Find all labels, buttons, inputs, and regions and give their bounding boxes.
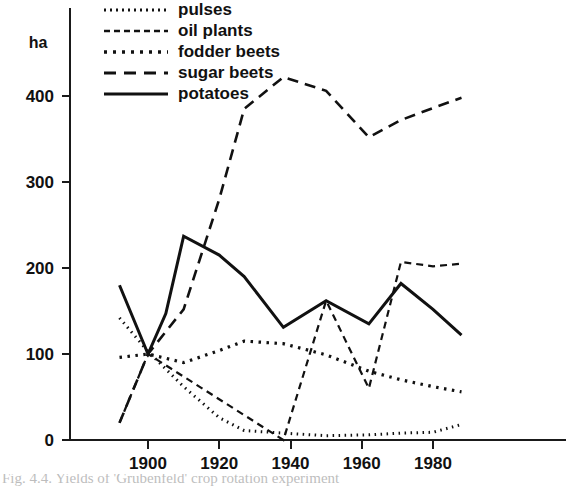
series-line-potatoes — [120, 236, 462, 354]
series-line-sugar-beets — [120, 77, 462, 423]
y-axis-unit-label: ha — [29, 34, 48, 51]
x-tick-label: 1940 — [272, 454, 310, 473]
line-chart-canvas: 0100200300400 19001920194019601980 ha pu… — [0, 0, 566, 486]
y-tick-label: 0 — [45, 431, 54, 450]
chart-figure: 0100200300400 19001920194019601980 ha pu… — [0, 0, 566, 486]
x-tick-label: 1960 — [343, 454, 381, 473]
legend-label-pulses: pulses — [178, 0, 232, 19]
y-tick-label: 100 — [26, 345, 54, 364]
data-series — [120, 77, 462, 440]
legend-label-oil-plants: oil plants — [178, 21, 253, 40]
chart-legend: pulsesoil plantsfodder beetssugar beetsp… — [104, 0, 280, 103]
series-line-fodder-beets — [120, 341, 462, 392]
legend-label-fodder-beets: fodder beets — [178, 42, 280, 61]
x-tick-label: 1980 — [414, 454, 452, 473]
figure-caption-strip: Fig. 4.4. Yields of 'Grubenfeld' crop ro… — [0, 474, 566, 486]
y-tick-label: 200 — [26, 259, 54, 278]
figure-caption: Fig. 4.4. Yields of 'Grubenfeld' crop ro… — [2, 474, 339, 486]
y-tick-label: 400 — [26, 87, 54, 106]
y-tick-label: 300 — [26, 173, 54, 192]
legend-label-potatoes: potatoes — [178, 84, 249, 103]
x-tick-label: 1900 — [129, 454, 167, 473]
legend-label-sugar-beets: sugar beets — [178, 63, 273, 82]
x-axis-tick-labels: 19001920194019601980 — [129, 454, 452, 473]
axis-ticks — [62, 96, 433, 449]
x-tick-label: 1920 — [200, 454, 238, 473]
y-axis-unit: ha — [29, 34, 48, 51]
y-axis-tick-labels: 0100200300400 — [26, 87, 54, 450]
